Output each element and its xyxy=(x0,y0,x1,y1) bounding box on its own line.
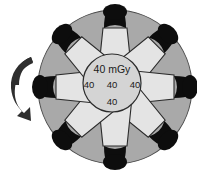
dose-value-bottom: 40 xyxy=(107,96,118,107)
dose-value-left: 40 xyxy=(84,79,95,90)
figure-canvas: 40 mGy 40 40 40 40 xyxy=(0,0,197,174)
counterclockwise-rotation-arrow xyxy=(11,57,33,121)
detector-cap-1 xyxy=(103,4,127,20)
detector-cap-5 xyxy=(103,154,127,170)
detector-cap-7 xyxy=(32,75,48,99)
dose-value-right: 40 xyxy=(130,79,141,90)
center-dose-label: 40 mGy xyxy=(94,63,132,75)
phantom-diagram: 40 mGy 40 40 40 40 xyxy=(0,0,197,174)
dose-value-middle: 40 xyxy=(107,79,118,90)
